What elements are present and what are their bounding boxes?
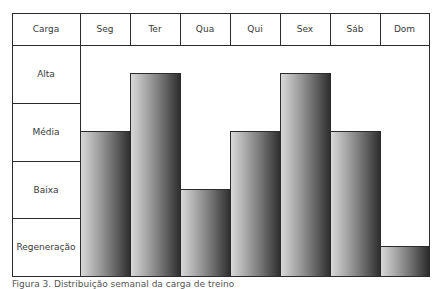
row-divider [12, 161, 80, 162]
header-day-ter: Ter [130, 13, 180, 45]
row-label-regeneracao: Regeneração [12, 218, 80, 276]
header-day-dom: Dom [380, 13, 429, 45]
bar-sex [280, 73, 331, 276]
bar-seg [80, 131, 131, 276]
row-label-alta: Alta [12, 45, 80, 103]
header-corner: Carga [12, 13, 80, 45]
label-column-divider [80, 13, 81, 277]
border-top [12, 13, 430, 14]
header-day-qua: Qua [180, 13, 230, 45]
bar-sab [330, 131, 381, 276]
border-right [429, 13, 430, 277]
row-label-media: Média [12, 103, 80, 161]
bar-ter [130, 73, 181, 276]
header-day-sab: Sáb [330, 13, 380, 45]
border-left [12, 13, 13, 277]
header-day-qui: Qui [230, 13, 280, 45]
header-day-seg: Seg [80, 13, 130, 45]
border-bottom [12, 276, 430, 277]
header-day-sex: Sex [280, 13, 330, 45]
header-divider [330, 13, 331, 45]
header-divider [280, 13, 281, 45]
bar-dom [380, 246, 429, 276]
row-divider [12, 218, 80, 219]
row-label-baixa: Baixa [12, 161, 80, 218]
header-divider [130, 13, 131, 45]
header-divider [180, 13, 181, 45]
bar-qua [180, 189, 231, 276]
bar-qui [230, 131, 281, 276]
row-divider [12, 103, 80, 104]
header-divider [380, 13, 381, 45]
figure-caption: Figura 3. Distribuição semanal da carga … [12, 279, 234, 289]
header-divider [230, 13, 231, 45]
header-bottom-line [12, 45, 430, 46]
